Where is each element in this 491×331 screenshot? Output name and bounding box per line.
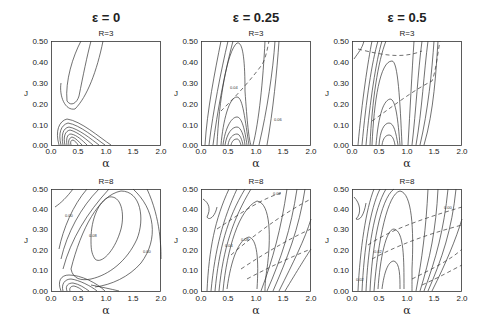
- y-tick: 0.20: [323, 100, 349, 109]
- x-tick: 2.0: [452, 294, 472, 303]
- contour-plot: 0.00 0.02 0.02: [352, 189, 462, 292]
- column-title-eps-05: ε = 0.5: [352, 10, 462, 25]
- y-axis-label: J: [24, 89, 28, 98]
- y-tick: 0.50: [172, 185, 198, 194]
- x-tick: 1.0: [96, 294, 116, 303]
- x-tick: 0.5: [68, 294, 88, 303]
- contour-plot: [352, 41, 462, 146]
- y-tick: 0.10: [323, 121, 349, 130]
- x-tick: 2.0: [301, 294, 321, 303]
- column-title-eps-0: ε = 0: [51, 10, 161, 25]
- x-tick: 1.5: [273, 147, 293, 156]
- contour-label: 0.02: [273, 191, 282, 196]
- panel-subtitle: R=3: [352, 29, 462, 38]
- y-tick: 0.20: [172, 246, 198, 255]
- y-axis-label: J: [325, 89, 329, 98]
- contour-label: 0.04: [230, 85, 239, 90]
- x-axis-label: α: [352, 304, 462, 317]
- contour-panel-eps025-r3: 0.04 0.06: [201, 41, 311, 146]
- y-tick: 0.10: [323, 266, 349, 275]
- y-tick: 0.40: [172, 58, 198, 67]
- x-tick: 1.0: [397, 294, 417, 303]
- y-tick: 0.20: [323, 246, 349, 255]
- x-tick: 0.0: [191, 294, 211, 303]
- x-tick: 0.0: [41, 294, 61, 303]
- x-tick: 1.0: [246, 294, 266, 303]
- y-tick: 0.40: [323, 205, 349, 214]
- y-tick: 0.10: [22, 121, 48, 130]
- y-tick: 0.30: [323, 79, 349, 88]
- x-tick: 1.5: [424, 147, 444, 156]
- y-tick: 0.40: [22, 58, 48, 67]
- contour-plot: 0.04 0.06: [201, 41, 311, 146]
- contour-panel-eps0-r8: 0.00 0.08 0.00: [51, 189, 161, 294]
- x-tick: 2.0: [301, 147, 321, 156]
- contour-plot: 0.02 0.04 0.08: [201, 189, 311, 292]
- y-tick: 0.20: [22, 246, 48, 255]
- contour-label: 0.02: [356, 277, 365, 282]
- contour-plot: 0.00 0.08 0.00: [51, 189, 161, 292]
- contour-label: 0.02: [374, 249, 383, 254]
- y-tick: 0.40: [172, 205, 198, 214]
- y-tick: 0.10: [22, 266, 48, 275]
- y-tick: 0.50: [323, 37, 349, 46]
- x-tick: 2.0: [452, 147, 472, 156]
- y-tick: 0.50: [172, 37, 198, 46]
- y-tick: 0.30: [22, 225, 48, 234]
- y-axis-label: J: [174, 89, 178, 98]
- x-tick: 1.5: [123, 294, 143, 303]
- y-axis-label: J: [24, 236, 28, 245]
- x-tick: 1.5: [424, 294, 444, 303]
- contour-label: 0.00: [65, 213, 74, 218]
- y-tick: 0.20: [172, 100, 198, 109]
- x-tick: 0.0: [342, 147, 362, 156]
- y-tick: 0.10: [172, 266, 198, 275]
- x-tick: 0.0: [342, 294, 362, 303]
- y-axis-label: J: [325, 236, 329, 245]
- contour-panel-eps05-r3: [352, 41, 462, 146]
- x-axis-label: α: [51, 304, 161, 317]
- contour-panel-eps05-r8: 0.00 0.02 0.02: [352, 189, 462, 294]
- panel-subtitle: R=8: [352, 177, 462, 186]
- x-tick: 2.0: [151, 147, 171, 156]
- x-tick: 0.5: [218, 294, 238, 303]
- y-tick: 0.20: [22, 100, 48, 109]
- x-tick: 0.5: [369, 294, 389, 303]
- contour-plot: [51, 41, 161, 146]
- y-tick: 0.40: [22, 205, 48, 214]
- x-tick: 0.5: [68, 147, 88, 156]
- column-title-eps-025: ε = 0.25: [201, 10, 311, 25]
- y-tick: 0.30: [172, 79, 198, 88]
- x-tick: 2.0: [151, 294, 171, 303]
- x-tick: 0.5: [369, 147, 389, 156]
- contour-label: 0.04: [225, 243, 234, 248]
- contour-label: 0.00: [143, 249, 152, 254]
- panel-subtitle: R=8: [201, 177, 311, 186]
- contour-label: 0.08: [89, 233, 98, 238]
- panel-subtitle: R=8: [51, 177, 161, 186]
- x-tick: 0.0: [41, 147, 61, 156]
- y-axis-label: J: [174, 236, 178, 245]
- x-tick: 1.0: [397, 147, 417, 156]
- panel-subtitle: R=3: [51, 29, 161, 38]
- x-tick: 1.5: [273, 294, 293, 303]
- x-tick: 1.0: [246, 147, 266, 156]
- x-tick: 1.5: [123, 147, 143, 156]
- x-axis-label: α: [51, 157, 161, 170]
- contour-panel-eps025-r8: 0.02 0.04 0.08: [201, 189, 311, 294]
- x-tick: 0.5: [218, 147, 238, 156]
- contour-panel-eps0-r3: [51, 41, 161, 146]
- x-tick: 1.0: [96, 147, 116, 156]
- x-axis-label: α: [201, 304, 311, 317]
- y-tick: 0.50: [22, 185, 48, 194]
- y-tick: 0.40: [323, 58, 349, 67]
- y-tick: 0.30: [172, 225, 198, 234]
- contour-label: 0.06: [274, 117, 283, 122]
- panel-subtitle: R=3: [201, 29, 311, 38]
- y-tick: 0.50: [323, 185, 349, 194]
- y-tick: 0.30: [22, 79, 48, 88]
- y-tick: 0.30: [323, 225, 349, 234]
- x-axis-label: α: [352, 157, 462, 170]
- x-axis-label: α: [201, 157, 311, 170]
- x-tick: 0.0: [191, 147, 211, 156]
